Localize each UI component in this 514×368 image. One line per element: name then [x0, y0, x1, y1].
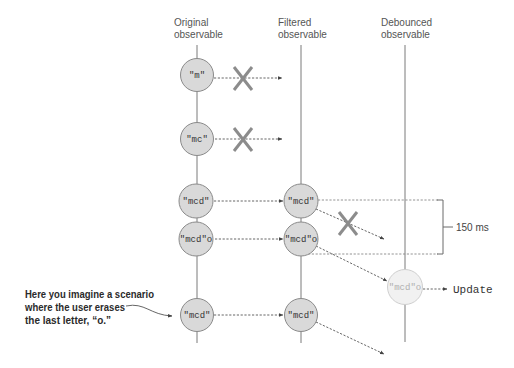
debounce-interval-bracket [437, 200, 453, 254]
event-value: "mcd"o [389, 283, 421, 293]
event-value: "mc" [186, 135, 208, 145]
column-label-line: Debounced [381, 17, 432, 28]
event-marble: "mcd" [181, 299, 214, 332]
rejected-x-icon [339, 212, 357, 235]
event-marble: "mcd" [179, 184, 213, 218]
event-marble: "m" [181, 59, 214, 92]
annotation-line: where the user erases [24, 301, 125, 313]
annotation-line: the last letter, “o.” [25, 314, 111, 326]
column-label-filtered: Filtered observable [278, 17, 327, 40]
column-label-line: observable [381, 29, 430, 40]
column-label-line: Original [174, 17, 208, 28]
debounce-marble-diagram: Original observable Filtered observable … [0, 0, 514, 368]
annotation-line: Here you imagine a scenario [25, 288, 154, 300]
event-value: "mcd" [182, 197, 209, 207]
rejected-x-icon [234, 128, 252, 151]
event-marble: "mcd" [284, 184, 318, 218]
debounced-emit-arrow [316, 246, 387, 281]
event-marble: "mcd"o [284, 222, 318, 256]
event-value: "mcd"o [285, 235, 317, 245]
event-marble-faded: "mcd"o [388, 270, 423, 305]
event-marble: "mc" [181, 123, 214, 156]
event-marble: "mcd"o [179, 222, 213, 256]
rejected-x-icon [234, 67, 252, 90]
column-label-line: observable [174, 29, 223, 40]
event-value: "mcd" [287, 197, 314, 207]
event-value: "m" [189, 71, 205, 81]
column-label-line: observable [278, 29, 327, 40]
event-value: "mcd" [183, 311, 210, 321]
scenario-annotation: Here you imagine a scenario where the us… [24, 288, 154, 326]
event-value: "mcd" [287, 311, 314, 321]
pending-emit-arrow [316, 322, 384, 354]
annotation-pointer-arrow [126, 305, 172, 316]
debounce-interval-label: 150 ms [456, 222, 489, 233]
event-value: "mcd"o [180, 235, 212, 245]
column-label-original: Original observable [174, 17, 223, 40]
update-label: Update [453, 284, 493, 296]
column-label-line: Filtered [278, 17, 311, 28]
event-marble: "mcd" [285, 299, 318, 332]
column-label-debounced: Debounced observable [381, 17, 432, 40]
